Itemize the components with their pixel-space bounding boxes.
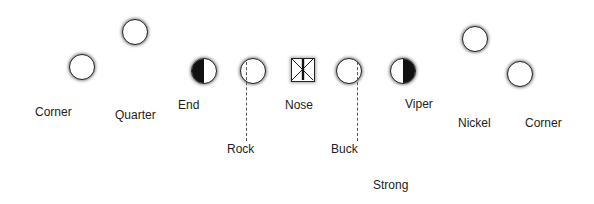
- corner-left-circle-icon: [69, 54, 95, 80]
- corner-left-label: Corner: [35, 105, 72, 119]
- buck-dashed-leader: [357, 62, 358, 141]
- nickel-label: Nickel: [458, 116, 491, 130]
- end-half-filled-circle-icon: [191, 58, 217, 84]
- rock-dashed-leader: [246, 62, 247, 141]
- nickel-circle-icon: [462, 26, 488, 52]
- buck-circle-icon: [336, 58, 362, 84]
- corner-right-label: Corner: [525, 116, 562, 130]
- nose-label: Nose: [285, 98, 313, 112]
- viper-label: Viper: [405, 97, 433, 111]
- formation-diagram: Corner Quarter End Rock Nose Buck Viper …: [0, 0, 594, 204]
- quarter-circle-icon: [122, 19, 148, 45]
- rock-label: Rock: [227, 142, 254, 156]
- viper-half-filled-circle-icon: [390, 58, 416, 84]
- nose-square-x-icon: [291, 58, 315, 82]
- buck-label: Buck: [331, 142, 358, 156]
- quarter-label: Quarter: [115, 108, 156, 122]
- end-label: End: [178, 98, 199, 112]
- rock-circle-icon: [240, 58, 266, 84]
- corner-right-circle-icon: [507, 61, 533, 87]
- strong-label: Strong: [373, 178, 408, 192]
